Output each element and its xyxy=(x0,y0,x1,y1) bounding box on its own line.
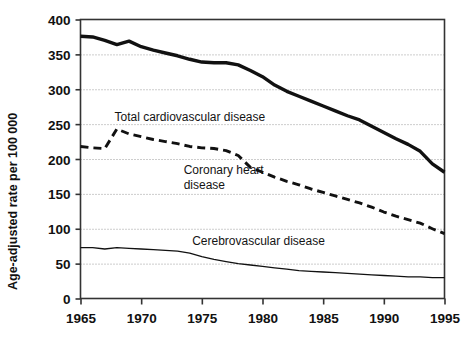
y-axis-title: Age-adjusted rate per 100 000 xyxy=(6,113,20,290)
annotation-line: Coronary heart xyxy=(184,163,265,177)
annotation-line: Cerebrovascular disease xyxy=(192,234,325,248)
y-tick-label-0: 0 xyxy=(63,292,71,307)
y-tick-label-150: 150 xyxy=(48,187,71,202)
x-tick-label-1965: 1965 xyxy=(66,311,97,326)
annotation-total-cardiovascular-disease: Total cardiovascular disease xyxy=(114,110,265,124)
y-tick-label-400: 400 xyxy=(48,13,71,28)
y-tick-label-250: 250 xyxy=(48,118,71,133)
line-chart: 050100150200250300350400 196519701975198… xyxy=(0,0,473,341)
annotation-line: disease xyxy=(184,178,226,192)
x-tick-label-1980: 1980 xyxy=(248,311,278,326)
x-tick-label-1985: 1985 xyxy=(309,311,340,326)
y-tick-label-300: 300 xyxy=(48,83,71,98)
annotation-line: Total cardiovascular disease xyxy=(114,110,265,124)
chart-container: 050100150200250300350400 196519701975198… xyxy=(0,0,473,341)
y-tick-label-50: 50 xyxy=(55,257,70,272)
y-tick-label-100: 100 xyxy=(48,222,71,237)
x-tick-label-1990: 1990 xyxy=(369,311,399,326)
y-tick-label-200: 200 xyxy=(48,153,71,168)
x-tick-label-1995: 1995 xyxy=(430,311,461,326)
annotation-cerebrovascular-disease: Cerebrovascular disease xyxy=(192,234,325,248)
x-tick-label-1975: 1975 xyxy=(187,311,218,326)
y-tick-label-350: 350 xyxy=(48,48,71,63)
x-tick-label-1970: 1970 xyxy=(127,311,157,326)
